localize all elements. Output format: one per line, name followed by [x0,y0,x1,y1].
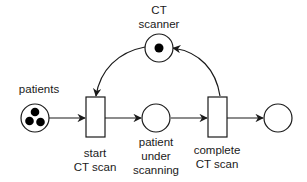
label-start-line1: start [84,147,107,159]
label-ct-scanner-line1: CT [151,4,166,16]
token [31,108,40,117]
petri-net-diagram: CT scanner patients start CT scan patien… [0,0,307,182]
label-complete-line1: complete [194,144,241,156]
label-patient-under-scanning-line3: scanning [133,164,179,176]
label-complete-line2: CT scan [196,158,239,170]
label-patient-under-scanning-line2: under [141,150,171,162]
token [36,118,45,127]
label-start-line2: CT scan [74,161,117,173]
transition-complete-ct-scan [208,97,227,137]
place-patient-under-scanning [142,104,170,132]
transition-start-ct-scan [86,97,105,137]
place-patients [21,104,49,132]
arc-complete-to-ct-scanner [173,48,220,96]
place-ct-scanner [145,34,173,62]
label-patients: patients [19,83,60,95]
label-patient-under-scanning-line1: patient [139,136,174,148]
label-ct-scanner-line2: scanner [139,18,180,30]
place-end [264,104,292,132]
arc-ct-scanner-to-start [96,47,145,96]
token [155,44,164,53]
token [25,117,34,126]
